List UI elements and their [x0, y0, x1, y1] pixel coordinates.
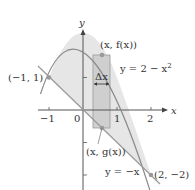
line-label: y = −x — [104, 166, 140, 177]
representative-rectangle — [93, 55, 110, 128]
y-axis-label: y — [78, 17, 85, 28]
left-intersection-label: (−1, 1) — [8, 72, 43, 83]
delta-x-label: Δx — [95, 71, 108, 82]
bottom-point-leader — [98, 128, 102, 144]
bottom-point-label: (x, g(x)) — [86, 146, 126, 157]
x-tick-label-0: 0 — [74, 113, 80, 124]
left-intersection-point — [47, 75, 52, 80]
right-intersection-point — [149, 173, 154, 178]
x-axis-label: x — [171, 105, 177, 116]
top-point — [100, 53, 105, 58]
x-tick-label-neg1: −1 — [40, 113, 55, 124]
x-tick-label-2: 2 — [147, 113, 153, 124]
x-axis-arrow-icon — [162, 108, 168, 113]
top-point-label: (x, f(x)) — [100, 39, 137, 50]
y-axis-arrow-icon — [81, 29, 86, 35]
area-between-curves-diagram: y x −1 0 1 2 (x, f(x)) (−1, 1) (x, g(x))… — [0, 0, 195, 190]
right-intersection-label: (2, −2) — [154, 169, 189, 180]
parabola-label: y = 2 − x2 — [119, 62, 172, 74]
diagram-canvas: y x −1 0 1 2 (x, f(x)) (−1, 1) (x, g(x))… — [0, 0, 195, 190]
x-tick-label-1: 1 — [114, 113, 120, 124]
